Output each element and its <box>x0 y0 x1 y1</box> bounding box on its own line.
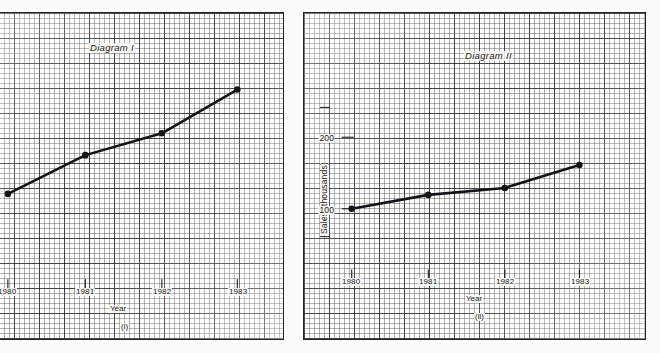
diagram-i-figure-caption: (i) <box>120 323 129 331</box>
diagram-i-title: Diagram I <box>89 43 135 53</box>
diagram-ii-xtick-1981: 1981 <box>418 278 438 286</box>
diagram-ii-y-axis-caption: Sales (thousands) <box>320 161 329 235</box>
diagram-ii-x-axis-caption: Year <box>465 295 483 303</box>
diagram-i-x-axis-caption: Year <box>109 305 127 313</box>
diagram-ii-xtick-1982: 1982 <box>495 278 515 286</box>
diagram-ii-x-tick-marks <box>352 269 580 279</box>
diagram-i-xtick-1980: 1980 <box>0 288 17 296</box>
diagram-ii-title: Diagram II <box>464 51 513 61</box>
diagram-ii-chart-panel: Diagram II Sales (thousands) 200 100 198… <box>303 12 646 340</box>
diagram-i-x-tick-marks <box>8 279 237 289</box>
diagram-ii-ytick-200: 200 <box>319 134 335 143</box>
diagram-i-xtick-1981: 1981 <box>75 288 95 296</box>
diagram-i-xtick-1982: 1982 <box>152 288 172 296</box>
diagram-ii-xtick-1980: 1980 <box>341 278 361 286</box>
diagram-ii-xtick-1983: 1983 <box>570 278 590 286</box>
diagram-ii-figure-caption: (ii) <box>474 313 485 321</box>
diagram-i-data-line <box>8 90 237 194</box>
diagram-ii-data-line <box>352 165 580 209</box>
diagram-i-xtick-1983: 1983 <box>228 288 248 296</box>
diagram-ii-series-overlay <box>304 13 645 339</box>
diagram-i-chart-panel: Diagram I 1980 1981 1982 1983 Year (i) <box>0 12 284 340</box>
diagram-i-data-markers <box>5 86 241 197</box>
diagram-ii-data-markers <box>348 162 582 212</box>
diagram-ii-ytick-100: 100 <box>319 206 335 215</box>
diagram-ii-y-tick-marks <box>342 137 354 209</box>
